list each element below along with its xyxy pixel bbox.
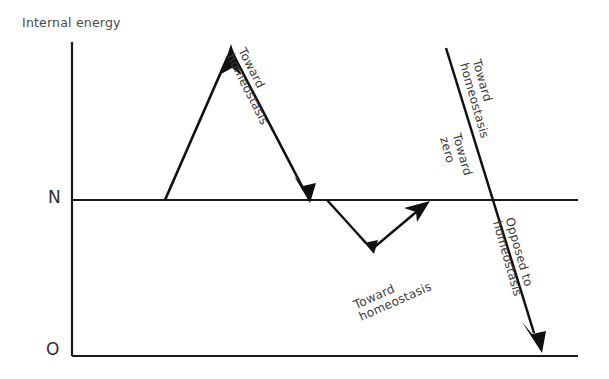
internal-energy-diagram: Internal energy N O Toward homeostasis T… <box>0 0 609 379</box>
y-tick-label-o: O <box>46 340 60 359</box>
rise-to-peak-shaft <box>165 56 228 200</box>
long-decline-arrowhead <box>522 322 546 353</box>
vector-trough-descent <box>327 200 378 254</box>
trough-descent-shaft <box>327 200 366 243</box>
vector-trough-ascent <box>371 201 430 250</box>
y-tick-label-n: N <box>48 188 61 207</box>
peak-descent-arrowhead <box>294 176 316 203</box>
diagram-canvas <box>0 0 609 379</box>
trough-ascent-shaft <box>371 208 421 250</box>
y-axis-title: Internal energy <box>22 16 121 30</box>
axes-group <box>72 42 578 356</box>
